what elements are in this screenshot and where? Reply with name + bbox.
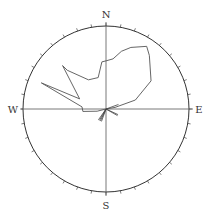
east-label: E — [195, 104, 202, 115]
petal-line — [106, 109, 118, 116]
north-label: N — [102, 9, 111, 20]
main-rose-outline — [41, 46, 151, 111]
west-label: W — [8, 104, 19, 115]
rose-diagram: N S W E — [0, 0, 212, 218]
south-label: S — [103, 200, 110, 211]
